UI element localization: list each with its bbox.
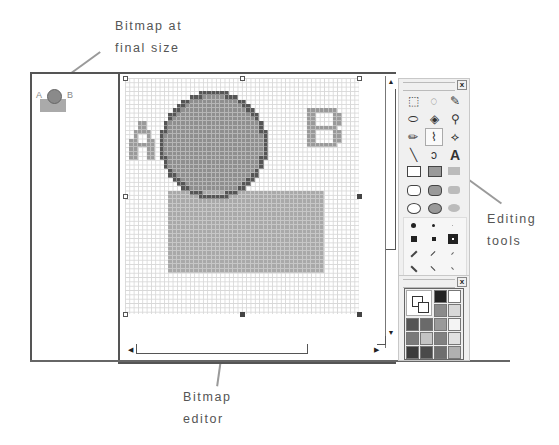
color-swatch[interactable] xyxy=(434,346,447,359)
tool-pencil-icon[interactable]: ✏ xyxy=(404,128,422,146)
color-swatch[interactable] xyxy=(448,318,461,331)
thumbnail-pane: A B xyxy=(30,72,119,362)
callout-editing-tools: Editing tools xyxy=(487,208,536,252)
color-swatch[interactable] xyxy=(420,346,433,359)
circle-edge-pixel xyxy=(251,178,255,182)
color-swatch[interactable] xyxy=(448,346,461,359)
scroll-up-button[interactable]: ▲ xyxy=(386,77,396,87)
circle-edge-pixel xyxy=(225,195,229,199)
bitmap-canvas[interactable] xyxy=(125,78,359,314)
color-swatch[interactable] xyxy=(448,332,461,345)
palette-grid xyxy=(404,288,464,360)
callout-bitmap-editor: Bitmap editor xyxy=(183,386,232,430)
shape-rect-filled-outline-icon[interactable] xyxy=(428,166,442,177)
shape-ellipse-outline-icon[interactable] xyxy=(407,203,421,214)
brush-round-large[interactable] xyxy=(411,223,416,228)
thumb-circle xyxy=(47,89,62,104)
callout-bitmap-at-final-size: Bitmap at final size xyxy=(115,15,182,59)
thumb-letter-b: B xyxy=(67,90,73,100)
scroll-down-button[interactable]: ▼ xyxy=(386,328,396,338)
brush-backslash-small[interactable] xyxy=(451,267,454,270)
rect-pixel xyxy=(320,269,324,273)
horizontal-scroll-thumb[interactable] xyxy=(136,344,308,354)
color-swatch[interactable] xyxy=(434,332,447,345)
shape-rect-outline-icon[interactable] xyxy=(407,166,421,177)
vertical-scroll-thumb[interactable] xyxy=(386,89,396,250)
circle-edge-pixel xyxy=(264,156,268,160)
horizontal-scrollbar[interactable]: ◀ ▶ xyxy=(122,344,384,356)
brush-round-medium[interactable] xyxy=(432,224,435,227)
vertical-scrollbar[interactable]: ▲ ▼ xyxy=(385,76,397,348)
resize-handle-bottom-mid[interactable] xyxy=(240,312,245,317)
circle-edge-pixel xyxy=(242,186,246,190)
palette-panel-titlebar[interactable] xyxy=(403,279,455,288)
shape-ellipse-filled-icon[interactable] xyxy=(448,204,460,212)
letter-a-pixel xyxy=(151,156,155,160)
background-color xyxy=(418,302,429,313)
brush-square-medium[interactable] xyxy=(432,237,436,241)
brush-slash-medium[interactable] xyxy=(431,251,436,256)
tool-fill-bucket-icon[interactable]: ◈ xyxy=(425,110,443,128)
resize-handle-mid-left xyxy=(123,194,128,199)
tool-dropper-icon[interactable]: ✎ xyxy=(446,92,464,110)
circle-edge-pixel xyxy=(233,191,237,195)
scroll-left-button[interactable]: ◀ xyxy=(125,345,135,355)
resize-handle-mid-right[interactable] xyxy=(357,194,362,199)
brush-slash-large[interactable] xyxy=(410,250,417,257)
brush-backslash-large[interactable] xyxy=(410,265,417,272)
tool-line-icon[interactable]: ╲ xyxy=(404,146,422,164)
palette-panel-close-button[interactable]: x xyxy=(457,277,467,287)
resize-handle-top-mid xyxy=(240,76,245,81)
color-swatch[interactable] xyxy=(434,318,447,331)
brush-square-large[interactable] xyxy=(411,236,417,242)
color-swatch[interactable] xyxy=(406,332,419,345)
resize-handle-bottom-left xyxy=(123,312,128,317)
color-swatch[interactable] xyxy=(420,318,433,331)
color-swatch[interactable] xyxy=(448,304,461,317)
letter-b-pixel xyxy=(337,139,341,143)
tool-select-free-icon[interactable]: ◌ xyxy=(425,92,443,110)
scroll-right-button[interactable]: ▶ xyxy=(371,345,381,355)
brush-backslash-medium[interactable] xyxy=(431,266,436,271)
tool-airbrush-icon[interactable]: ⟡ xyxy=(446,128,464,146)
tools-panel: x ⬚◌✎⬭◈⚲✏⌇⟡╲ↄA xyxy=(398,78,470,276)
brush-square-small-selected[interactable] xyxy=(448,234,458,244)
leader-line-right xyxy=(464,176,502,204)
bitmap-thumbnail[interactable]: A B xyxy=(42,86,72,110)
circle-edge-pixel xyxy=(259,165,263,169)
circle-edge-pixel xyxy=(255,173,259,177)
color-swatch[interactable] xyxy=(420,332,433,345)
shape-ellipse-filled-outline-icon[interactable] xyxy=(428,203,442,214)
letter-a-pixel xyxy=(134,156,138,160)
brush-options xyxy=(403,217,467,283)
tool-select-rect-icon[interactable]: ⬚ xyxy=(404,92,422,110)
shape-roundrect-filled-icon[interactable] xyxy=(448,186,460,194)
letter-b-pixel xyxy=(333,143,337,147)
current-colors-indicator[interactable] xyxy=(406,290,432,316)
color-swatch[interactable] xyxy=(406,346,419,359)
brush-round-small[interactable] xyxy=(452,225,453,226)
shape-roundrect-filled-outline-icon[interactable] xyxy=(428,185,442,196)
color-swatch[interactable] xyxy=(406,318,419,331)
bitmap-editor-pane: ▲ ▼ ◀ ▶ xyxy=(118,72,396,364)
shape-roundrect-outline-icon[interactable] xyxy=(407,185,421,196)
tools-panel-titlebar[interactable] xyxy=(403,82,455,91)
shape-rect-filled-icon[interactable] xyxy=(448,167,460,175)
resize-handle-top-right xyxy=(357,76,362,81)
scroll-corner xyxy=(377,336,386,345)
resize-handle-top-left xyxy=(123,76,128,81)
tool-text-icon[interactable]: A xyxy=(446,146,464,164)
circle-edge-pixel xyxy=(246,182,250,186)
resize-handle-bottom-right[interactable] xyxy=(357,312,362,317)
tools-panel-close-button[interactable]: x xyxy=(457,80,467,90)
color-swatch[interactable] xyxy=(434,290,447,303)
color-swatch[interactable] xyxy=(434,304,447,317)
brush-slash-small[interactable] xyxy=(451,252,454,255)
tool-brush-icon[interactable]: ⌇ xyxy=(425,128,443,146)
letter-b-pixel xyxy=(337,121,341,125)
color-swatch[interactable] xyxy=(448,290,461,303)
tool-magnifier-icon[interactable]: ⚲ xyxy=(446,110,464,128)
tool-eraser-icon[interactable]: ⬭ xyxy=(404,110,422,128)
tool-curve-icon[interactable]: ↄ xyxy=(425,146,443,164)
color-palette-panel: x xyxy=(398,275,470,361)
